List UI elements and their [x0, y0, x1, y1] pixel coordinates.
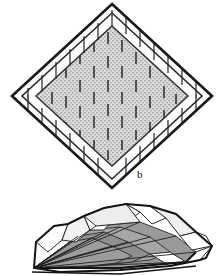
nested-diamond-plan-view	[0, 0, 223, 196]
panel-label-b: b	[137, 169, 143, 180]
diamond-interior-fill	[36, 26, 188, 166]
faceted-surface-perspective-view	[0, 196, 223, 276]
